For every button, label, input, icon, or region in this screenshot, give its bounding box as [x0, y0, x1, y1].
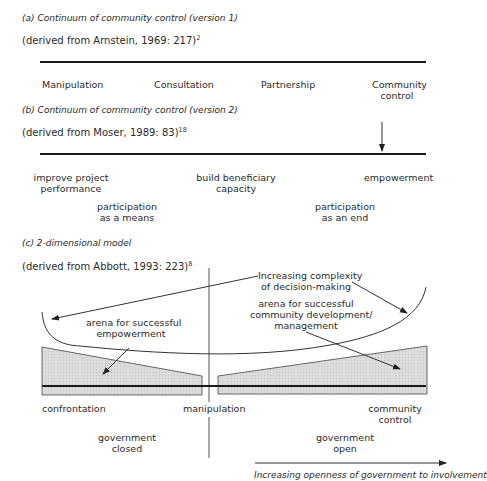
label-gov-open-line2: open — [314, 443, 376, 454]
label-improve-line2: performance — [30, 183, 112, 194]
panel-a-source-text: (derived from Arnstein, 1969: 217) — [22, 35, 196, 46]
panel-c-source-text: (derived from Abbott, 1993: 223) — [22, 261, 188, 272]
panel-b-source-text: (derived from Moser, 1989: 83) — [22, 127, 179, 138]
label-arena-comm-line1: arena for successful — [250, 298, 362, 309]
label-government-closed: government closed — [96, 432, 158, 454]
wedge-left — [42, 347, 202, 395]
label-means-line2: as a means — [95, 212, 159, 223]
label-community-c-line2: control — [368, 414, 422, 425]
label-community-control-c: community control — [368, 403, 422, 425]
label-build-capacity: build beneficiary capacity — [196, 172, 276, 194]
label-arena-empowerment: arena for successful empowerment — [86, 317, 176, 339]
label-partnership: Partnership — [261, 79, 315, 90]
label-community-control: Community control — [372, 79, 422, 101]
panel-a-title: (a) Continuum of community control (vers… — [22, 13, 238, 24]
label-confrontation: confrontation — [42, 403, 106, 414]
label-arena-comm-line2: community development/ — [250, 309, 362, 320]
label-gov-open-line1: government — [314, 432, 376, 443]
label-build-line1: build beneficiary — [196, 172, 276, 183]
label-gov-closed-line1: government — [96, 432, 158, 443]
label-community-c-line1: community — [368, 403, 422, 414]
label-complexity-line2: of decision-making — [258, 281, 354, 292]
label-arena-emp-line2: empowerment — [86, 328, 176, 339]
panel-c-source: (derived from Abbott, 1993: 223)8 — [22, 261, 192, 272]
complexity-arrow-left — [52, 276, 258, 319]
label-end-line2: as an end — [313, 212, 377, 223]
label-complexity-line1: Increasing complexity — [258, 270, 354, 281]
label-arena-comm-line3: management — [250, 320, 362, 331]
label-community: Community — [372, 79, 422, 90]
panel-c-source-ref: 8 — [188, 260, 192, 268]
panel-a-source-ref: 2 — [196, 34, 200, 42]
label-complexity: Increasing complexity of decision-making — [258, 270, 354, 292]
label-arena-emp-line1: arena for successful — [86, 317, 176, 328]
label-means-line1: participation — [95, 201, 159, 212]
label-manipulation-c: manipulation — [183, 403, 245, 414]
label-arena-community: arena for successful community developme… — [250, 298, 362, 331]
label-manipulation: Manipulation — [42, 79, 103, 90]
panel-c-title: (c) 2-dimensional model — [22, 238, 131, 249]
panel-b-source-ref: 18 — [179, 126, 187, 134]
label-build-line2: capacity — [196, 183, 276, 194]
label-participation-end: participation as an end — [313, 201, 377, 223]
label-control: control — [372, 90, 422, 101]
label-improve-line1: improve project — [30, 172, 112, 183]
openness-caption: Increasing openness of government to inv… — [254, 470, 487, 481]
panel-a-source: (derived from Arnstein, 1969: 217)2 — [22, 35, 200, 46]
label-participation-means: participation as a means — [95, 201, 159, 223]
panel-b-title: (b) Continuum of community control (vers… — [22, 105, 238, 116]
label-government-open: government open — [314, 432, 376, 454]
label-consultation: Consultation — [154, 79, 214, 90]
label-empowerment: empowerment — [364, 172, 433, 183]
label-improve-performance: improve project performance — [30, 172, 112, 194]
label-gov-closed-line2: closed — [96, 443, 158, 454]
label-end-line1: participation — [313, 201, 377, 212]
panel-b-source: (derived from Moser, 1989: 83)18 — [22, 127, 187, 138]
